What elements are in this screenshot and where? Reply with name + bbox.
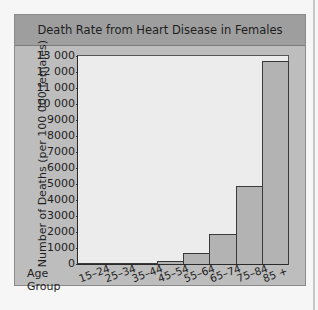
x-axis-title-line2: Group: [27, 280, 61, 293]
x-axis-title-line1: Age: [27, 267, 61, 280]
bar-6: [236, 186, 263, 264]
chart-panel: Death Rate from Heart Disease in Females…: [14, 14, 306, 286]
y-axis-title: Number of Deaths (per 100 000 females): [36, 39, 49, 269]
chart-title: Death Rate from Heart Disease in Females: [15, 15, 305, 46]
bar-7: [262, 61, 289, 264]
bar-5: [209, 234, 236, 264]
x-axis-title: Age Group: [27, 267, 61, 293]
page-edge: [313, 0, 315, 310]
plot-area: [77, 55, 289, 265]
bar-4: [183, 253, 210, 264]
